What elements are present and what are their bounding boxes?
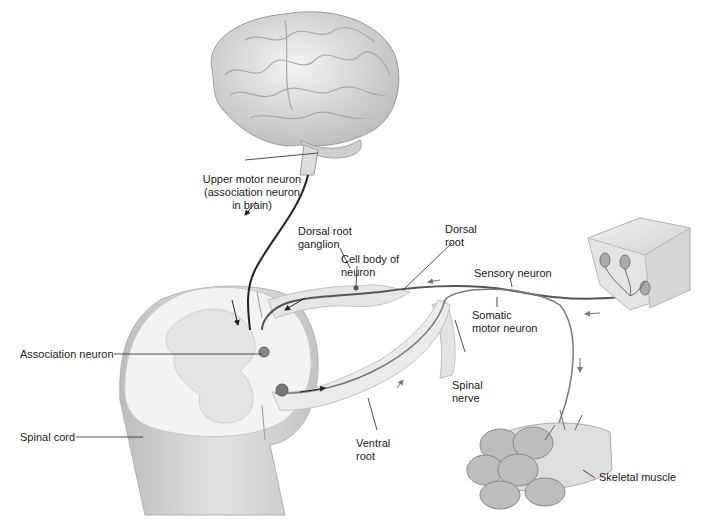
motor-neuron-body [276, 384, 288, 396]
label-ventral-root: Ventral root [356, 437, 390, 463]
skin-receptor-illustration [588, 218, 690, 310]
label-upper-motor-neuron: Upper motor neuron (association neuron i… [192, 173, 312, 212]
label-dorsal-root: Dorsal root [445, 223, 477, 249]
label-sensory-neuron: Sensory neuron [474, 267, 552, 280]
label-spinal-cord: Spinal cord [20, 431, 75, 444]
label-somatic-motor-neuron: Somatic motor neuron [472, 309, 537, 335]
label-spinal-nerve: Spinal nerve [452, 379, 483, 405]
brain-illustration [211, 12, 399, 175]
label-association-neuron: Association neuron [20, 348, 114, 361]
label-dorsal-root-ganglion: Dorsal root ganglion [298, 225, 352, 251]
association-neuron-body [259, 347, 269, 357]
label-cell-body-of-neuron: Cell body of neuron [341, 253, 399, 279]
skeletal-muscle-illustration [467, 410, 612, 509]
dorsal-root-ganglion-cell [354, 286, 359, 291]
label-skeletal-muscle: Skeletal muscle [599, 471, 676, 484]
